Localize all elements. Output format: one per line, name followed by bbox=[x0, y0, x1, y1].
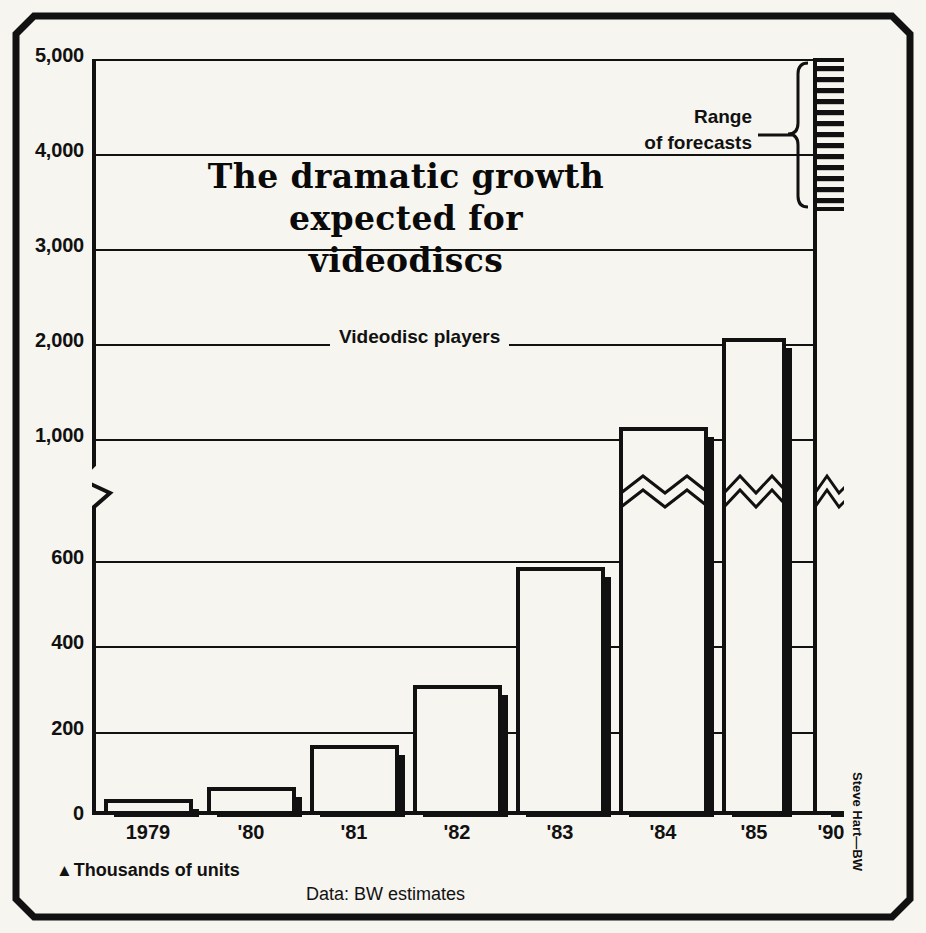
y-tick-3000: 3,000 bbox=[35, 235, 84, 255]
x-axis-tick-labels: 1979 '80 '81 '82 '83 '84 '85 '90 bbox=[92, 822, 844, 856]
x-tick-1983: '83 bbox=[546, 822, 573, 842]
y-tick-1000: 1,000 bbox=[35, 425, 84, 445]
forecast-range-label-line2: of forecasts bbox=[630, 130, 752, 156]
y-tick-0: 0 bbox=[73, 803, 84, 823]
plot-svg bbox=[92, 55, 844, 818]
y-tick-200: 200 bbox=[51, 718, 84, 738]
x-tick-1981: '81 bbox=[340, 822, 367, 842]
source-note: Data: BW estimates bbox=[306, 885, 465, 903]
bar-1981 bbox=[312, 747, 405, 817]
chart-figure: 5,000 4,000 3,000 2,000 1,000 600 400 20… bbox=[0, 0, 926, 933]
forecast-range-label: Range of forecasts bbox=[630, 104, 752, 155]
x-tick-1990: '90 bbox=[817, 822, 844, 842]
artist-credit: Steve Hart—BW bbox=[851, 772, 864, 871]
y-tick-5000: 5,000 bbox=[35, 45, 84, 65]
x-tick-1984: '84 bbox=[649, 822, 676, 842]
y-tick-600: 600 bbox=[51, 547, 84, 567]
plot-area bbox=[92, 55, 844, 818]
bar-1985 bbox=[724, 340, 792, 817]
units-note-text: Thousands of units bbox=[74, 860, 240, 880]
forecast-range-label-line1: Range bbox=[630, 104, 752, 130]
bar-1980 bbox=[209, 789, 302, 817]
y-axis-break-zigzag bbox=[92, 455, 110, 548]
y-tick-4000: 4,000 bbox=[35, 140, 84, 160]
x-tick-1980: '80 bbox=[237, 822, 264, 842]
series-label: Videodisc players bbox=[330, 327, 509, 348]
y-axis-tick-labels: 5,000 4,000 3,000 2,000 1,000 600 400 20… bbox=[0, 55, 84, 818]
y-tick-2000: 2,000 bbox=[35, 330, 84, 350]
bar-1983 bbox=[518, 569, 611, 817]
triangle-marker-icon: ▲ bbox=[56, 861, 73, 880]
bar-1982 bbox=[415, 687, 508, 817]
x-tick-1985: '85 bbox=[740, 822, 767, 842]
y-tick-400: 400 bbox=[51, 632, 84, 652]
bar-1984 bbox=[621, 429, 714, 817]
units-note: ▲Thousands of units bbox=[56, 861, 240, 879]
x-tick-1979: 1979 bbox=[126, 822, 171, 842]
forecast-range-hatch bbox=[815, 62, 844, 207]
bar-1990 bbox=[815, 60, 844, 817]
x-tick-1982: '82 bbox=[443, 822, 470, 842]
bar-1979 bbox=[106, 801, 199, 817]
